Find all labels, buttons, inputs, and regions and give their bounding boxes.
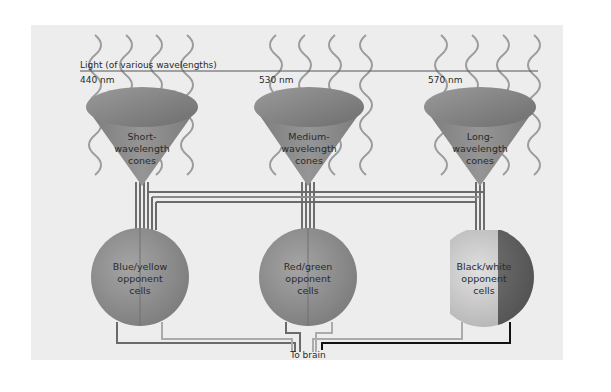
cell-blue-yellow-line3: cells [129,285,150,296]
cell-blue-yellow-line2: opponent [117,273,163,284]
light-label: Light (of various wavelengths) [80,60,217,70]
cell-black-white-line3: cells [473,285,494,296]
wiring-cones-to-cells [136,182,484,232]
cell-red-green-line2: opponent [285,273,331,284]
cone-short-line3: cones [128,155,156,166]
cone-short: Short- wavelength cones [86,87,198,186]
cell-red-green-line1: Red/green [284,261,333,272]
cell-red-green: Red/green opponent cells [259,228,357,326]
cell-red-green-line3: cells [297,285,318,296]
cone-medium-line2: wavelength [281,143,336,154]
cone-medium-wavelength: 530 nm [259,75,294,85]
cone-medium-line1: Medium- [288,131,329,142]
cone-long-line3: cones [466,155,494,166]
cell-black-white-line2: opponent [461,273,507,284]
cell-blue-yellow-line1: Blue/yellow [113,261,168,272]
cone-short-line1: Short- [128,131,157,142]
cone-short-wavelength: 440 nm [80,75,115,85]
wiring-cells-to-brain [117,322,510,352]
cone-medium: Medium- wavelength cones [254,87,364,186]
cone-medium-line3: cones [295,155,323,166]
to-brain-label: To brain [289,350,325,360]
cone-long-wavelength: 570 nm [428,75,463,85]
cell-black-white-line1: Black/white [457,261,512,272]
cone-long-line1: Long- [467,131,493,142]
cell-blue-yellow: Blue/yellow opponent cells [91,228,189,326]
cell-black-white: Black/white opponent cells [434,227,534,327]
color-vision-diagram: Light (of various wavelengths) 440 nm 53… [0,0,611,392]
cone-long-line2: wavelength [452,143,507,154]
cone-short-line2: wavelength [114,143,169,154]
cone-long: Long- wavelength cones [424,87,536,186]
